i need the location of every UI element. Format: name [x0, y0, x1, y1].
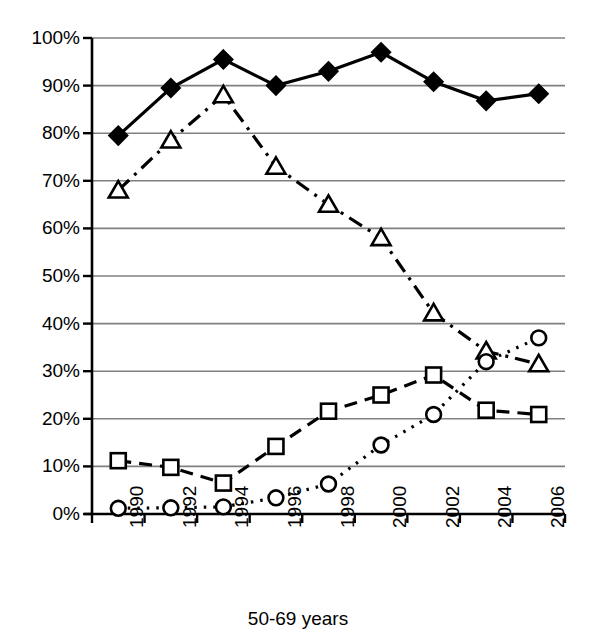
marker-square — [374, 388, 389, 403]
marker-triangle — [529, 355, 548, 371]
marker-circle — [374, 438, 389, 453]
data-point — [426, 368, 441, 383]
marker-diamond — [266, 76, 285, 95]
data-point — [424, 72, 443, 91]
x-axis-tick-label: 2004 — [495, 486, 514, 528]
marker-circle — [111, 501, 126, 516]
x-axis-tick-label: 2000 — [390, 486, 409, 528]
marker-circle — [321, 477, 336, 492]
x-axis-title: 50-69 years — [0, 608, 596, 630]
data-point — [372, 229, 391, 245]
data-point — [163, 500, 178, 515]
marker-circle — [479, 354, 494, 369]
x-axis-tick-label: 1992 — [180, 486, 199, 528]
marker-diamond — [214, 50, 233, 69]
marker-diamond — [372, 43, 391, 62]
data-point — [531, 407, 546, 422]
chart-plot-area — [0, 0, 596, 642]
data-point — [531, 330, 546, 345]
data-point — [479, 354, 494, 369]
data-point — [372, 43, 391, 62]
data-point — [374, 438, 389, 453]
marker-square — [321, 404, 336, 419]
data-point — [216, 499, 231, 514]
marker-diamond — [477, 91, 496, 110]
marker-square — [531, 407, 546, 422]
x-axis-tick-label: 2002 — [443, 486, 462, 528]
data-point — [319, 195, 338, 211]
data-point — [319, 62, 338, 81]
data-point — [426, 407, 441, 422]
data-point — [269, 490, 284, 505]
data-point — [321, 477, 336, 492]
x-axis-tick-label: 1996 — [285, 486, 304, 528]
marker-diamond — [319, 62, 338, 81]
marker-circle — [426, 407, 441, 422]
marker-square — [479, 403, 494, 418]
x-axis-tick-label: 1998 — [338, 486, 357, 528]
marker-square — [268, 439, 283, 454]
marker-square — [426, 368, 441, 383]
marker-circle — [531, 330, 546, 345]
marker-square — [216, 476, 231, 491]
data-point — [111, 453, 126, 468]
data-point — [214, 86, 233, 102]
marker-circle — [269, 490, 284, 505]
marker-triangle — [266, 157, 285, 173]
data-point — [477, 91, 496, 110]
data-point — [214, 50, 233, 69]
marker-square — [111, 453, 126, 468]
data-point — [111, 501, 126, 516]
data-point — [321, 404, 336, 419]
marker-triangle — [214, 86, 233, 102]
marker-circle — [216, 499, 231, 514]
marker-square — [163, 460, 178, 475]
chart-container: 0%10%20%30%40%50%60%70%80%90%100% 50-69 … — [0, 0, 596, 642]
data-point — [529, 84, 548, 103]
data-point — [266, 157, 285, 173]
data-point — [374, 388, 389, 403]
marker-triangle — [372, 229, 391, 245]
data-point — [266, 76, 285, 95]
data-point — [479, 403, 494, 418]
marker-circle — [163, 500, 178, 515]
marker-diamond — [529, 84, 548, 103]
x-axis-tick-label: 1990 — [127, 486, 146, 528]
data-point — [216, 476, 231, 491]
marker-diamond — [424, 72, 443, 91]
x-axis-tick-label: 1994 — [232, 486, 251, 528]
marker-triangle — [319, 195, 338, 211]
x-axis-tick-label: 2006 — [548, 486, 567, 528]
data-point — [529, 355, 548, 371]
data-point — [268, 439, 283, 454]
data-point — [163, 460, 178, 475]
